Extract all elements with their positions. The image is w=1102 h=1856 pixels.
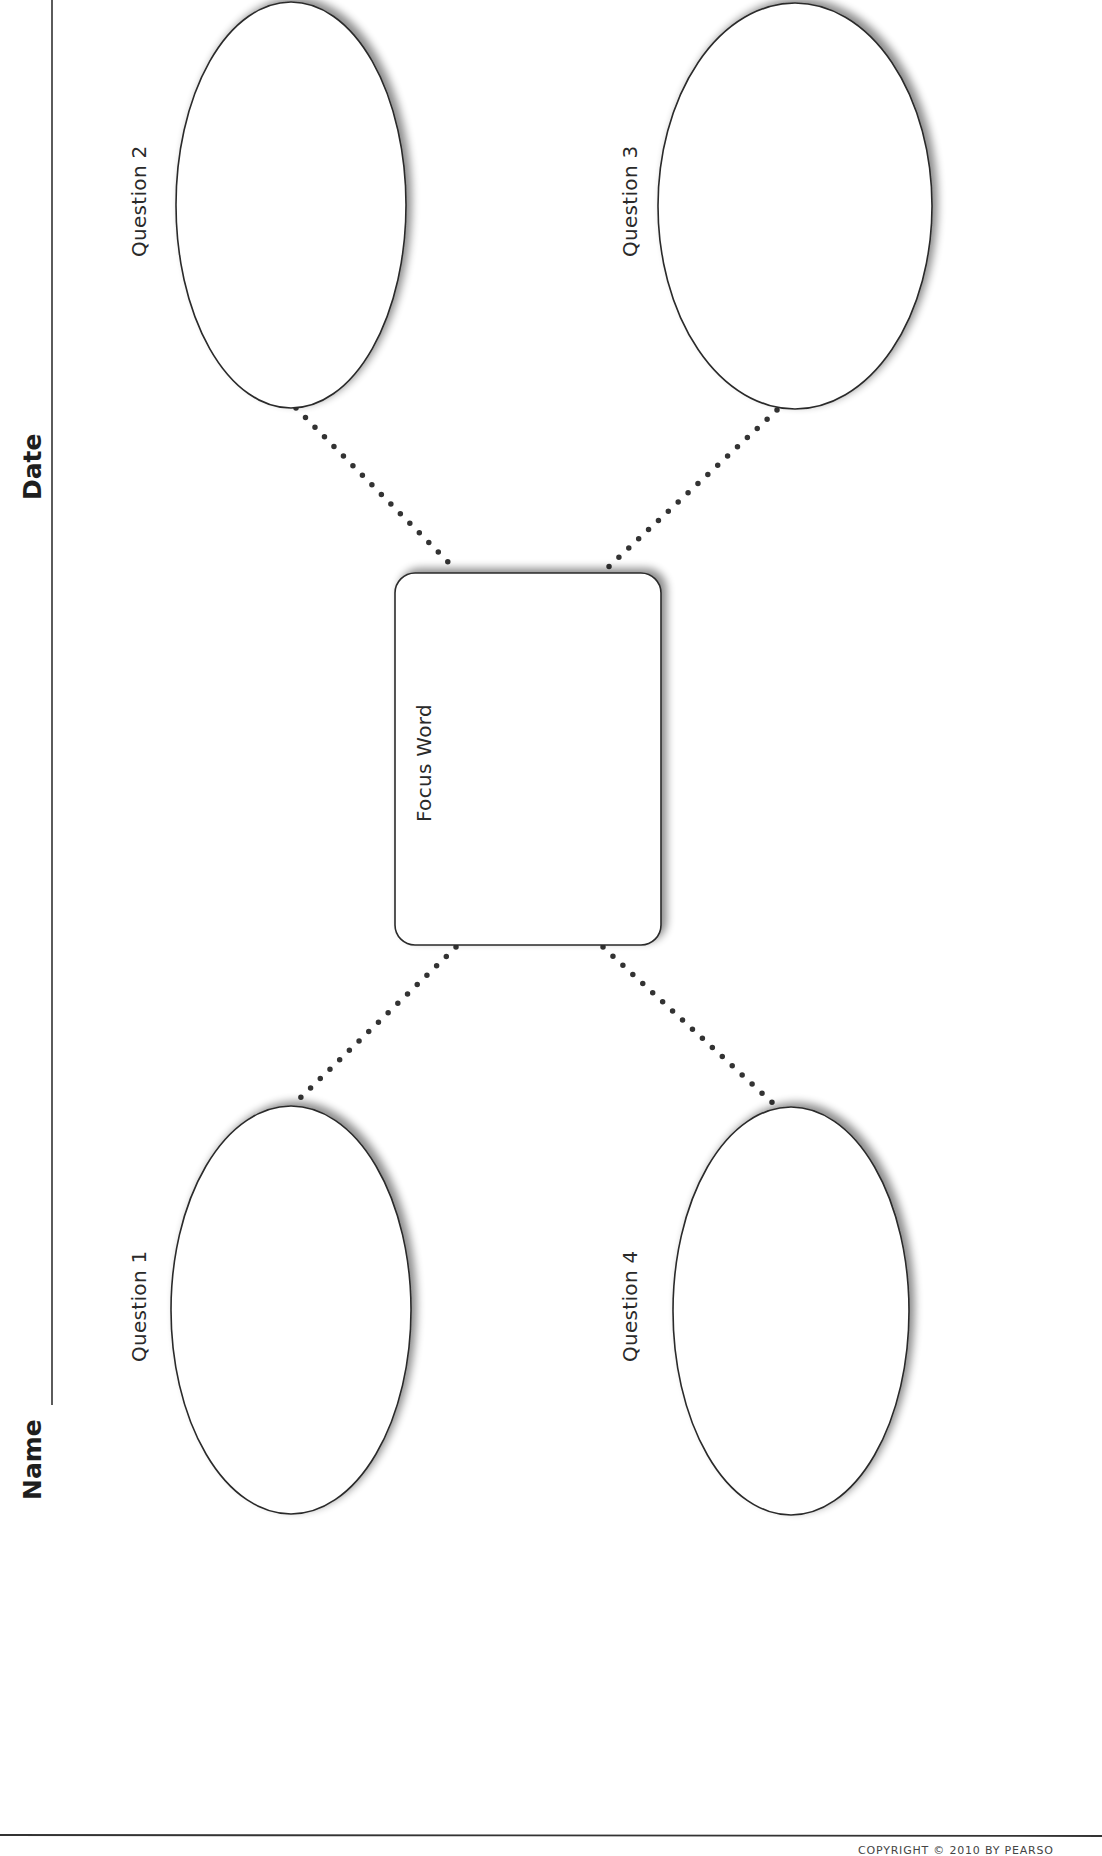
question-3-label: Question 3 (620, 145, 640, 257)
question-1-ellipse[interactable] (171, 1106, 411, 1514)
question-4-ellipse[interactable] (673, 1107, 909, 1515)
connector-question-1 (294, 947, 456, 1104)
connector-question-3 (603, 410, 777, 572)
question-4-label: Question 4 (620, 1250, 640, 1362)
focus-word-label: Focus Word (414, 704, 434, 822)
copyright-notice: COPYRIGHT © 2010 BY PEARSO (858, 1844, 1054, 1856)
question-2-label: Question 2 (129, 145, 149, 257)
connector-question-2 (296, 408, 456, 570)
question-1-label: Question 1 (129, 1250, 149, 1362)
name-label: Name (20, 1419, 45, 1500)
graphic-organizer-drawing (0, 0, 1102, 1856)
date-label: Date (20, 433, 45, 500)
question-2-ellipse[interactable] (176, 2, 406, 408)
footer-rule (0, 1835, 1102, 1836)
connector-question-4 (603, 947, 776, 1106)
question-3-ellipse[interactable] (658, 3, 932, 409)
worksheet-page: Name Date Question 1 Question 2 Question… (0, 0, 1102, 1856)
